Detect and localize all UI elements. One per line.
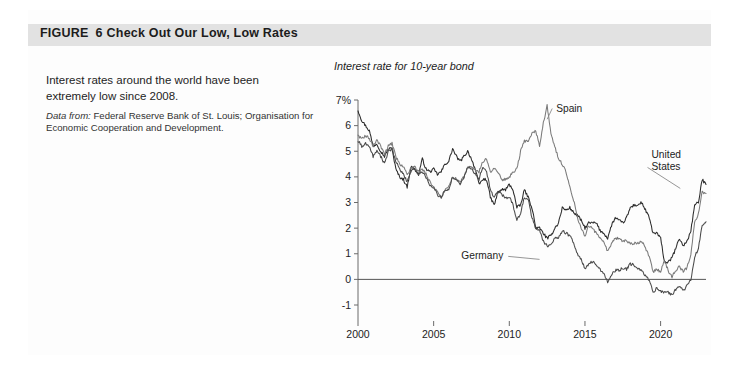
x-axis-tick-label: 2010 [498, 328, 522, 338]
annotation-label: Spain [556, 103, 582, 114]
source-label: Data from: [46, 110, 91, 121]
chart-plot-area: 7%6543210-1 20002005201020152020 SpainUn… [334, 88, 709, 338]
figure-title: Check Out Our Low, Low Rates [107, 26, 298, 40]
y-axis-tick-label: -1 [342, 299, 351, 311]
figure-container: FIGURE6Check Out Our Low, Low Rates Inte… [0, 0, 739, 372]
caption-source: Data from: Federal Reserve Bank of St. L… [46, 110, 326, 135]
y-axis-tick-label: 4 [345, 170, 351, 182]
x-axis-tick-label: 2000 [346, 328, 370, 338]
x-axis-group: 20002005201020152020 [346, 321, 672, 338]
x-axis-tick-label: 2005 [422, 328, 446, 338]
y-axis-tick-label: 5 [345, 145, 351, 157]
y-axis-group: 7%6543210-1 [336, 94, 358, 321]
y-axis-tick-label: 3 [345, 196, 351, 208]
figure-caption-block: Interest rates around the world have bee… [46, 72, 326, 135]
y-axis-tick-label: 1 [345, 247, 351, 259]
series-line-spain [358, 104, 706, 278]
x-axis-tick-label: 2020 [649, 328, 673, 338]
figure-label: FIGURE [40, 26, 88, 40]
chart-title: Interest rate for 10-year bond [334, 60, 474, 72]
y-axis-tick-label: 6 [345, 119, 351, 131]
annotation-leader-line [508, 256, 539, 259]
figure-number: 6 [95, 26, 102, 40]
annotation-label: States [652, 161, 681, 172]
y-axis-tick-label: 0 [345, 273, 351, 285]
interest-rate-line-chart: 7%6543210-1 20002005201020152020 SpainUn… [334, 88, 709, 338]
caption-line-1: Interest rates around the world have bee… [46, 72, 326, 88]
figure-header-text: FIGURE6Check Out Our Low, Low Rates [40, 26, 298, 40]
y-axis-tick-label: 2 [345, 222, 351, 234]
annotation-label: United [652, 149, 682, 160]
annotation-label: Germany [461, 250, 504, 261]
series-group [358, 104, 706, 295]
x-axis-tick-label: 2015 [573, 328, 597, 338]
y-axis-tick-label: 7% [336, 94, 351, 106]
caption-line-2: extremely low since 2008. [46, 88, 326, 104]
